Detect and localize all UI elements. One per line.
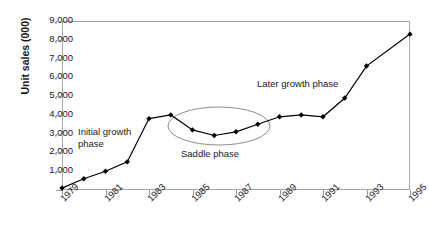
y-tick-mark bbox=[56, 171, 62, 172]
y-tick-label: 1,000 bbox=[27, 164, 73, 175]
y-tick-label: 9,000 bbox=[27, 14, 73, 25]
y-tick-label: 8,000 bbox=[27, 33, 73, 44]
y-tick-mark bbox=[56, 115, 62, 116]
annotation-later-growth-phase: Later growth phase bbox=[257, 78, 338, 90]
y-tick-label: 6,000 bbox=[27, 70, 73, 81]
plot-area bbox=[62, 21, 410, 190]
annotation-saddle-phase: Saddle phase bbox=[181, 148, 239, 160]
y-tick-label: 7,000 bbox=[27, 52, 73, 63]
y-tick-label: 4,000 bbox=[27, 108, 73, 119]
y-tick-label: 3,000 bbox=[27, 127, 73, 138]
y-tick-mark bbox=[56, 40, 62, 41]
annotation-initial-growth-phase: Initial growth phase bbox=[78, 126, 150, 150]
y-tick-mark bbox=[56, 59, 62, 60]
y-tick-mark bbox=[56, 96, 62, 97]
y-tick-mark bbox=[56, 77, 62, 78]
y-tick-mark bbox=[56, 134, 62, 135]
y-tick-label: 5,000 bbox=[27, 89, 73, 100]
y-tick-mark bbox=[56, 152, 62, 153]
y-tick-label: 2,000 bbox=[27, 145, 73, 156]
y-tick-mark bbox=[56, 21, 62, 22]
